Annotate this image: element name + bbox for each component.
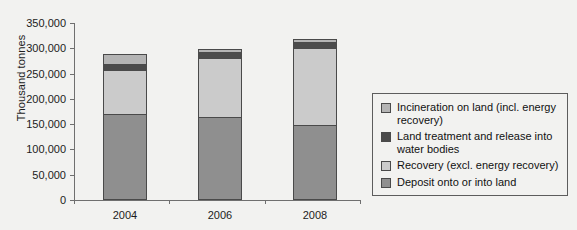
legend-swatch-icon [381, 178, 391, 188]
y-axis-tick-mark [70, 175, 74, 176]
x-axis-tick-label: 2004 [95, 209, 155, 221]
y-axis-tick-mark [70, 74, 74, 75]
bar-segment[interactable] [198, 58, 242, 117]
y-axis-tick-mark [70, 48, 74, 49]
chart-legend: Incineration on land (incl. energy recov… [372, 93, 568, 196]
y-axis-tick-label: 350,000 [0, 17, 74, 29]
bar-segment[interactable] [103, 70, 147, 114]
stacked-bar-chart: Thousand tonnes 050,000100,000150,000200… [0, 0, 577, 230]
bar-segment[interactable] [103, 114, 147, 200]
y-axis-line [74, 23, 75, 201]
y-axis-tick-mark [70, 99, 74, 100]
y-axis-tick-label: 100,000 [0, 143, 74, 155]
legend-item-label: Recovery (excl. energy recovery) [397, 159, 558, 172]
y-axis-tick-label: 250,000 [0, 68, 74, 80]
y-axis-tick-mark [70, 149, 74, 150]
legend-item-land-treatment-water-bodies[interactable]: Land treatment and release into water bo… [381, 130, 561, 155]
legend-swatch-icon [381, 103, 391, 113]
stacked-bar-2006[interactable] [198, 49, 242, 200]
bar-segment[interactable] [293, 125, 337, 200]
legend-item-incineration-on-land[interactable]: Incineration on land (incl. energy recov… [381, 101, 561, 126]
x-axis-tick-label: 2006 [190, 209, 250, 221]
plot-area: 050,000100,000150,000200,000250,000300,0… [74, 23, 360, 200]
y-axis-tick-mark [70, 23, 74, 24]
x-axis-tick-mark [360, 200, 361, 204]
bar-segment[interactable] [103, 54, 147, 64]
legend-swatch-icon [381, 161, 391, 171]
y-axis-tick-mark [70, 124, 74, 125]
legend-swatch-icon [381, 132, 391, 142]
legend-item-label: Incineration on land (incl. energy recov… [397, 101, 561, 126]
x-axis-line [74, 200, 361, 201]
x-axis-tick-mark [74, 200, 75, 204]
y-axis-tick-label: 300,000 [0, 42, 74, 54]
x-axis-tick-mark [265, 200, 266, 204]
legend-item-deposit-onto-into-land[interactable]: Deposit onto or into land [381, 176, 561, 189]
y-axis-tick-label: 200,000 [0, 93, 74, 105]
y-axis-tick-label: 150,000 [0, 118, 74, 130]
stacked-bar-2004[interactable] [103, 54, 147, 200]
legend-item-label: Land treatment and release into water bo… [397, 130, 561, 155]
bar-segment[interactable] [198, 117, 242, 200]
legend-item-recovery-excl-energy[interactable]: Recovery (excl. energy recovery) [381, 159, 561, 172]
x-axis-tick-mark [169, 200, 170, 204]
legend-item-label: Deposit onto or into land [397, 176, 516, 189]
y-axis-tick-label: 0 [0, 194, 74, 206]
bar-segment[interactable] [293, 48, 337, 125]
x-axis-tick-label: 2008 [285, 209, 345, 221]
y-axis-tick-label: 50,000 [0, 169, 74, 181]
stacked-bar-2008[interactable] [293, 39, 337, 200]
